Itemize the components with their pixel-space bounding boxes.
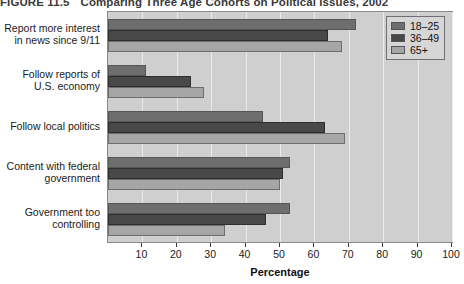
- category-label-3: Content with federalgovernment: [0, 160, 100, 185]
- x-tick-mark-80: [382, 243, 383, 247]
- category-label-4: Government toocontrolling: [0, 206, 100, 231]
- x-axis-title: Percentage: [107, 266, 453, 278]
- figure-title: FIGURE 11.5Comparing Three Age Cohorts o…: [0, 0, 464, 10]
- legend-item-0: 18–25: [391, 20, 439, 32]
- x-tick-label-90: 90: [402, 248, 432, 260]
- category-label-2: Follow local politics: [0, 120, 100, 133]
- figure-title-text: Comparing Three Age Cohorts on Political…: [81, 0, 389, 8]
- x-tick-mark-60: [313, 243, 314, 247]
- category-label-line: Report more interest: [0, 22, 100, 35]
- legend: 18–2536–4965+: [386, 16, 445, 60]
- x-tick-label-40: 40: [230, 248, 260, 260]
- bar-4-1: [108, 214, 266, 225]
- category-label-line: Follow reports of: [0, 68, 100, 81]
- bar-0-0: [108, 19, 356, 30]
- bar-3-0: [108, 157, 290, 168]
- x-tick-label-70: 70: [333, 248, 363, 260]
- category-label-line: U.S. economy: [0, 80, 100, 93]
- legend-swatch-icon: [391, 22, 405, 30]
- bar-4-0: [108, 203, 290, 214]
- category-label-line: in news since 9/11: [0, 34, 100, 47]
- legend-swatch-icon: [391, 46, 405, 54]
- x-tick-mark-30: [210, 243, 211, 247]
- x-tick-mark-90: [417, 243, 418, 247]
- bar-2-2: [108, 133, 345, 144]
- x-tick-label-80: 80: [367, 248, 397, 260]
- category-label-line: Government too: [0, 206, 100, 219]
- bar-1-2: [108, 87, 204, 98]
- x-tick-mark-70: [348, 243, 349, 247]
- x-tick-label-30: 30: [195, 248, 225, 260]
- bar-2-1: [108, 122, 325, 133]
- bar-0-2: [108, 41, 342, 52]
- x-tick-mark-40: [245, 243, 246, 247]
- bar-0-1: [108, 30, 328, 41]
- x-tick-mark-50: [279, 243, 280, 247]
- x-tick-label-60: 60: [298, 248, 328, 260]
- legend-item-label: 36–49: [410, 32, 439, 44]
- x-tick-label-20: 20: [161, 248, 191, 260]
- category-label-0: Report more interestin news since 9/11: [0, 22, 100, 47]
- category-label-line: Follow local politics: [0, 120, 100, 133]
- gridline-100: [452, 12, 453, 242]
- figure-container: FIGURE 11.5Comparing Three Age Cohorts o…: [0, 0, 464, 284]
- x-tick-mark-20: [176, 243, 177, 247]
- bar-1-0: [108, 65, 146, 76]
- category-label-line: Content with federal: [0, 160, 100, 173]
- bar-1-1: [108, 76, 191, 87]
- bar-2-0: [108, 111, 263, 122]
- legend-swatch-icon: [391, 34, 405, 42]
- legend-item-1: 36–49: [391, 32, 439, 44]
- legend-item-2: 65+: [391, 44, 439, 56]
- bar-4-2: [108, 225, 225, 236]
- category-label-1: Follow reports ofU.S. economy: [0, 68, 100, 93]
- x-tick-label-50: 50: [264, 248, 294, 260]
- category-label-line: government: [0, 172, 100, 185]
- x-tick-mark-10: [141, 243, 142, 247]
- bar-3-1: [108, 168, 283, 179]
- bar-3-2: [108, 179, 280, 190]
- x-tick-label-10: 10: [126, 248, 156, 260]
- x-tick-label-100: 100: [436, 248, 464, 260]
- x-axis-ticks: 102030405060708090100: [107, 243, 453, 255]
- x-tick-mark-100: [451, 243, 452, 247]
- figure-number: FIGURE 11.5: [0, 0, 70, 8]
- legend-item-label: 18–25: [410, 20, 439, 32]
- legend-item-label: 65+: [410, 44, 428, 56]
- category-label-line: controlling: [0, 218, 100, 231]
